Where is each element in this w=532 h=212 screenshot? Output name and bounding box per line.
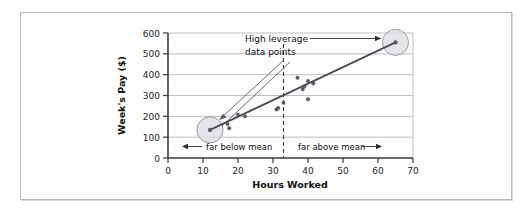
data-point <box>277 106 280 109</box>
x-axis-title: Hours Worked <box>252 179 328 190</box>
data-point <box>306 79 309 82</box>
y-axis-title: Week's Pay ($) <box>116 56 127 135</box>
annotation-high-leverage-line1: High leverage <box>245 34 308 44</box>
x-tick-50: 50 <box>337 166 349 176</box>
x-tick-30: 30 <box>267 166 279 176</box>
annotation-high-leverage-line2: data points <box>245 47 296 57</box>
far-below-mean-annotation: far below mean <box>182 142 272 152</box>
data-point <box>394 40 398 44</box>
x-tick-60: 60 <box>372 166 384 176</box>
far-below-mean-label: far below mean <box>206 142 272 152</box>
x-tick-20: 20 <box>232 166 244 176</box>
x-tick-10: 10 <box>197 166 209 176</box>
y-tick-200: 200 <box>143 112 160 122</box>
data-point <box>243 115 246 118</box>
x-tick-40: 40 <box>302 166 314 176</box>
data-point <box>236 113 239 116</box>
data-point <box>303 84 306 87</box>
far-above-mean-annotation: far above mean <box>298 142 382 152</box>
data-point <box>306 98 309 101</box>
y-tick-100: 100 <box>143 133 160 143</box>
y-axis-tick-labels: 600 500 400 300 200 100 0 <box>143 29 160 164</box>
far-above-mean-label: far above mean <box>298 142 365 152</box>
data-point <box>301 88 304 91</box>
annotation-arrow-upper <box>310 36 381 41</box>
scatter-plot: 600 500 400 300 200 100 0 0 10 20 30 40 <box>0 0 532 212</box>
y-tick-600: 600 <box>143 29 160 39</box>
data-point <box>208 128 212 132</box>
y-tick-400: 400 <box>143 70 160 80</box>
y-tick-0: 0 <box>154 154 160 164</box>
y-tick-500: 500 <box>143 49 160 59</box>
data-point <box>228 127 231 130</box>
x-axis-tick-labels: 0 10 20 30 40 50 60 70 <box>165 166 419 176</box>
data-point <box>282 101 285 104</box>
y-tick-300: 300 <box>143 91 160 101</box>
data-point <box>296 76 299 79</box>
figure-container: 600 500 400 300 200 100 0 0 10 20 30 40 <box>0 0 532 212</box>
x-tick-70: 70 <box>407 166 419 176</box>
data-point <box>312 82 315 85</box>
data-point <box>226 122 229 125</box>
x-tick-0: 0 <box>165 166 171 176</box>
